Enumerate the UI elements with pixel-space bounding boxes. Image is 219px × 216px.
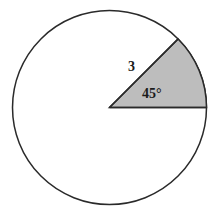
circle-sector-figure: 3 45° [0, 0, 219, 216]
geometry-diagram-svg [0, 0, 219, 216]
central-angle-label: 45° [142, 87, 162, 101]
radius-length-label: 3 [128, 60, 135, 74]
